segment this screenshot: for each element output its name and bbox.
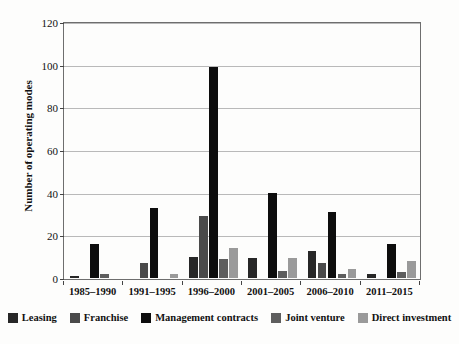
x-tick-mark (63, 281, 64, 285)
legend-swatch-icon (70, 313, 80, 323)
bar (318, 263, 327, 278)
bar (387, 244, 396, 278)
bar (348, 269, 357, 278)
x-axis: 1985–19901991–19951996–20002001–20052006… (63, 281, 421, 301)
y-tick-mark (60, 194, 64, 195)
y-tick-label: 20 (47, 230, 58, 242)
legend-label: Management contracts (155, 312, 258, 323)
y-tick-label: 40 (47, 188, 58, 200)
x-tick-mark (241, 281, 242, 285)
legend-swatch-icon (141, 313, 151, 323)
x-tick-mark (300, 281, 301, 285)
bar-group (130, 24, 179, 278)
bar (308, 251, 317, 278)
bar-series-container (65, 24, 419, 278)
bar (90, 244, 99, 278)
legend-item-franchise[interactable]: Franchise (70, 312, 128, 323)
y-tick-label: 120 (42, 17, 59, 29)
legend-label: Joint venture (285, 312, 345, 323)
legend-item-leasing[interactable]: Leasing (8, 312, 57, 323)
bar (229, 248, 238, 278)
bar (328, 212, 337, 278)
y-tick-label: 80 (47, 102, 58, 114)
bar (407, 261, 416, 278)
bar (268, 193, 277, 278)
x-tick-label: 1996–2000 (188, 286, 235, 297)
bar-group (308, 24, 357, 278)
bar-group (189, 24, 238, 278)
legend-swatch-icon (358, 313, 368, 323)
x-tick-label: 2011–2015 (366, 286, 413, 297)
bar (170, 274, 179, 278)
bar-group (248, 24, 297, 278)
bar (219, 259, 228, 278)
bar (288, 258, 297, 278)
y-tick-mark (60, 151, 64, 152)
y-tick-label: 100 (42, 60, 59, 72)
x-tick-mark (360, 281, 361, 285)
y-tick-label: 0 (53, 273, 59, 285)
bar (140, 263, 149, 278)
y-tick-mark (60, 279, 64, 280)
bar (189, 257, 198, 278)
y-tick-label: 60 (47, 145, 58, 157)
y-tick-mark (60, 66, 64, 67)
bar (397, 272, 406, 278)
bar-chart-figure: Number of operating modes 02040608010012… (0, 0, 459, 344)
bar (367, 274, 376, 278)
y-tick-mark (60, 236, 64, 237)
bar (199, 216, 208, 278)
x-tick-mark (182, 281, 183, 285)
bar (248, 258, 257, 278)
bar (278, 271, 287, 278)
bar (150, 208, 159, 278)
bar (338, 274, 347, 278)
y-tick-mark (60, 108, 64, 109)
legend-swatch-icon (271, 313, 281, 323)
bar-group (367, 24, 416, 278)
x-tick-mark (419, 281, 420, 285)
legend-item-management-contracts[interactable]: Management contracts (141, 312, 258, 323)
x-tick-mark (122, 281, 123, 285)
x-tick-label: 2006–2010 (306, 286, 353, 297)
legend-label: Franchise (84, 312, 128, 323)
bar (100, 274, 109, 278)
x-tick-label: 1985–1990 (69, 286, 116, 297)
legend-item-joint-venture[interactable]: Joint venture (271, 312, 345, 323)
y-tick-mark (60, 23, 64, 24)
legend-item-direct-investment[interactable]: Direct investment (358, 312, 451, 323)
plot-area: 020406080100120 (63, 22, 421, 280)
chart-legend: LeasingFranchiseManagement contractsJoin… (0, 312, 459, 323)
x-tick-label: 1991–1995 (128, 286, 175, 297)
legend-label: Leasing (22, 312, 57, 323)
legend-swatch-icon (8, 313, 18, 323)
x-tick-label: 2001–2005 (247, 286, 294, 297)
y-axis-title: Number of operating modes (22, 24, 42, 268)
bar (70, 276, 79, 278)
bar-group (70, 24, 119, 278)
legend-label: Direct investment (372, 312, 451, 323)
bar (209, 67, 218, 278)
